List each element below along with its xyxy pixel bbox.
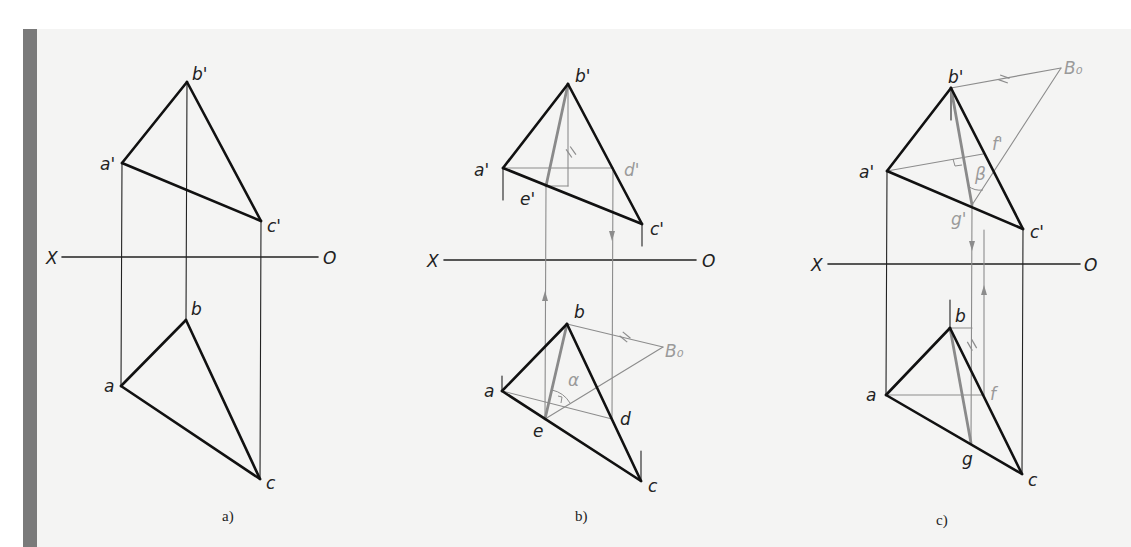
point-label: f: [990, 384, 999, 404]
panel-caption: c): [936, 512, 948, 529]
right-angle-icon: [953, 159, 962, 166]
triangle-edge: [568, 84, 642, 224]
equal-length-tick-icon: [620, 332, 631, 342]
point-label: e': [520, 189, 535, 209]
point-label: β: [974, 164, 986, 184]
true-length-line: [951, 88, 972, 205]
panel-caption: a): [222, 508, 234, 525]
axis-label-o: O: [323, 248, 336, 268]
point-label: c': [1030, 222, 1044, 242]
point-label: a: [866, 385, 876, 405]
point-label: α: [568, 370, 579, 390]
axis-label-o: O: [1084, 255, 1097, 275]
point-label: a': [100, 154, 115, 174]
arrow-up-icon: [981, 285, 987, 295]
construction-line: [972, 68, 1061, 205]
right-angle-icon: [558, 396, 562, 403]
triangle-edge: [122, 163, 261, 221]
construction-line: [887, 154, 983, 171]
axis-label-o: O: [702, 251, 715, 271]
point-label: a': [859, 162, 874, 182]
projection-line: [886, 171, 887, 395]
point-label: d': [624, 160, 639, 180]
point-label: b: [191, 299, 202, 319]
triangle-edge: [502, 324, 567, 391]
point-label: a: [484, 381, 494, 401]
projection-line: [186, 82, 187, 320]
panel-caption: b): [575, 508, 588, 525]
point-label: a': [474, 160, 489, 180]
projection-line: [1022, 229, 1023, 474]
point-label: e: [533, 421, 543, 441]
axis-label-x: X: [45, 248, 58, 268]
point-label: b': [948, 67, 963, 87]
arrow-down-icon: [609, 231, 615, 241]
point-label: c: [648, 476, 658, 496]
point-label: c': [267, 216, 281, 236]
point-label: b: [574, 302, 585, 322]
construction-line: [545, 186, 546, 419]
point-label: g': [951, 209, 966, 229]
drawing-canvas: XOb'a'c'baca)XOb'a'd'e'c'bB₀αaedcb)XOb'B…: [0, 0, 1131, 547]
axis-label-x: X: [426, 251, 439, 271]
construction-line: [502, 391, 612, 419]
panel-b: XOb'a'd'e'c'bB₀αaedcb): [426, 66, 715, 525]
arrow-up-icon: [542, 291, 548, 301]
projection-line: [260, 221, 261, 479]
true-length-line: [950, 328, 971, 443]
axis-label-x: X: [810, 255, 823, 275]
point-label: c': [650, 219, 664, 239]
panel-c: XOb'B₀f'a'βg'c'bafgcc): [810, 58, 1097, 529]
construction-line: [567, 324, 663, 347]
orthographic-projection-figure: XOb'a'c'baca)XOb'a'd'e'c'bB₀αaedcb)XOb'B…: [0, 0, 1131, 547]
panel-a: XOb'a'c'baca): [45, 64, 336, 525]
equal-length-tick-icon: [967, 339, 976, 350]
construction-line: [971, 205, 972, 443]
point-label: c: [266, 473, 276, 493]
point-label: g: [962, 449, 973, 469]
construction-line: [951, 68, 1061, 88]
triangle-edge: [886, 328, 950, 395]
triangle-edge: [122, 82, 187, 163]
point-label: b': [575, 66, 590, 86]
point-label: a: [104, 376, 114, 396]
point-label: c: [1028, 470, 1038, 490]
construction-line: [545, 347, 663, 419]
triangle-edge: [121, 320, 186, 386]
point-label: f': [992, 134, 1003, 154]
point-label: b': [192, 64, 207, 84]
arrow-down-icon: [969, 241, 975, 251]
point-label: d: [620, 409, 631, 429]
point-label: b: [955, 306, 966, 326]
point-label: B₀: [1064, 58, 1083, 78]
triangle-edge: [887, 88, 951, 171]
triangle-edge: [187, 82, 261, 221]
point-label: B₀: [665, 341, 684, 361]
construction-line: [612, 168, 613, 419]
projection-line: [121, 163, 122, 386]
triangle-edge: [951, 88, 1023, 229]
